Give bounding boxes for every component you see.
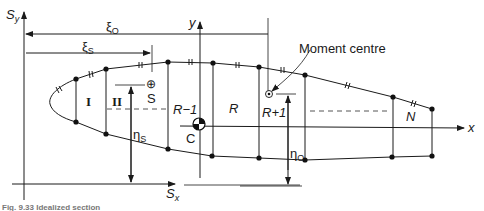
panel-r-plus-1-label: R+1 [262, 106, 286, 119]
moment-centre-icon [266, 91, 273, 98]
xi-o-label: ξO [106, 20, 119, 36]
panel-2-label: II [112, 95, 122, 108]
panel-r-minus-1-label: R−1 [173, 103, 197, 116]
xi-s-label: ξS [82, 40, 94, 56]
boom-points [73, 59, 434, 162]
shear-centre-label: S [147, 92, 156, 105]
y-axis-label: y [189, 16, 196, 29]
shear-centre-icon: ⊕ [146, 78, 156, 90]
idealized-section-diagram: Sy Sx y x ξO ξS ηS ηO ⊕ S C Moment centr… [0, 0, 484, 211]
panel-n-label: N [406, 110, 415, 123]
eta-s-label: ηS [133, 128, 146, 144]
figure-caption: Fig. 9.33 Idealized section [2, 203, 100, 211]
eta-o-label: ηO [290, 147, 304, 163]
diagram-canvas [0, 0, 484, 211]
moment-centre-label: Moment centre [299, 42, 386, 55]
centroid-label: C [186, 132, 195, 145]
panel-r-label: R [229, 102, 238, 115]
sy-axis-label: Sy [6, 8, 19, 24]
x-axis [180, 126, 464, 128]
sx-axis-label: Sx [166, 187, 179, 203]
section-outline [76, 62, 432, 109]
x-axis-label: x [468, 121, 475, 134]
panel-1-label: I [86, 95, 91, 108]
centroid-icon [193, 118, 205, 130]
